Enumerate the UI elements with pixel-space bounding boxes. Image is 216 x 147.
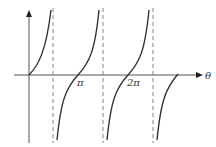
branch-4 [157,74,178,140]
tick-label-two-pi: 2π [126,77,140,88]
x-axis-label-theta: θ [205,70,211,81]
tick-label-pi: π [76,77,84,88]
branch-1 [29,10,51,75]
tangent-graph: π 2π θ [0,0,216,147]
x-axis-arrow-icon [196,72,203,78]
y-axis-arrow-icon [26,10,32,17]
